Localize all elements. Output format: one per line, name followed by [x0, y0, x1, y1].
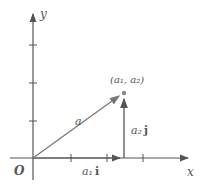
i-component-label: a₁i [82, 165, 99, 178]
point-label: (a₁, a₂) [110, 74, 144, 85]
point-a1-a2 [122, 91, 126, 95]
vector-a-label: a [75, 115, 82, 128]
y-axis [29, 14, 37, 180]
j-component-label: a₂j [131, 124, 148, 137]
y-axis-label: y [39, 7, 47, 21]
x-axis-label: x [187, 165, 194, 179]
origin-label: O [14, 164, 25, 178]
vector-diagram: y x O (a₁, a₂) a a₁i a₂j [0, 0, 204, 193]
